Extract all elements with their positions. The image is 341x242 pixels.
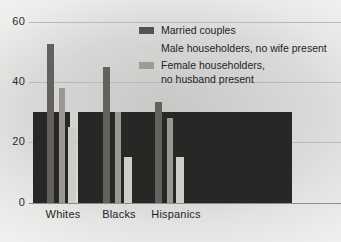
legend-item-male-householders: Male householders, no wife present: [139, 42, 327, 56]
legend-label-male-householders: Male householders, no wife present: [161, 42, 327, 56]
bar-blacks-male-householders: [124, 157, 132, 203]
ytick-label-20: 20: [3, 135, 25, 147]
ytick-label-0: 0: [3, 196, 25, 208]
bar-hispanics-married-couples: [155, 102, 162, 203]
bar-whites-female-householders: [59, 88, 65, 203]
bar-blacks-female-householders: [115, 112, 121, 203]
xtick-label-blacks: Blacks: [95, 208, 143, 220]
legend-label-married-couples: Married couples: [161, 24, 236, 38]
ytick-label-40: 40: [3, 75, 25, 87]
gridline-60: [29, 22, 341, 23]
legend-swatch-icon-married-couples: [139, 27, 154, 34]
legend-swatch-icon-male-householders: [139, 45, 154, 52]
plot-shade-block-3: [175, 112, 292, 203]
chart-figure: 60 40 20 0 Whites Blacks Hispanics Marri…: [0, 0, 341, 242]
xtick-label-whites: Whites: [38, 208, 88, 220]
legend-item-female-householders: Female householders, no husband present: [139, 59, 327, 86]
legend-item-married-couples: Married couples: [139, 24, 327, 38]
bar-hispanics-female-householders: [167, 118, 173, 203]
xtick-label-hispanics: Hispanics: [145, 208, 207, 220]
bar-whites-male-householders: [68, 127, 76, 203]
ytick-label-60: 60: [3, 15, 25, 27]
plot-area: 60 40 20 0 Whites Blacks Hispanics Marri…: [0, 0, 341, 242]
axis-baseline: [29, 203, 341, 204]
bar-hispanics-male-householders: [176, 157, 184, 203]
bar-whites-married-couples: [47, 44, 54, 203]
legend-swatch-icon-female-householders: [139, 62, 154, 69]
legend-label-female-householders: Female householders, no husband present: [161, 59, 265, 86]
bar-blacks-married-couples: [103, 67, 110, 203]
chart-legend: Married couples Male householders, no wi…: [139, 24, 327, 90]
